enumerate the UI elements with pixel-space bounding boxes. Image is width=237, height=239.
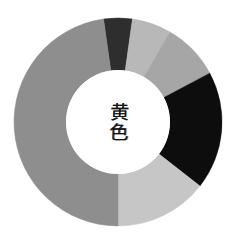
- donut-hole: [66, 70, 170, 174]
- donut-chart-svg: [0, 0, 237, 239]
- donut-chart-figure: 黄色: [0, 0, 237, 239]
